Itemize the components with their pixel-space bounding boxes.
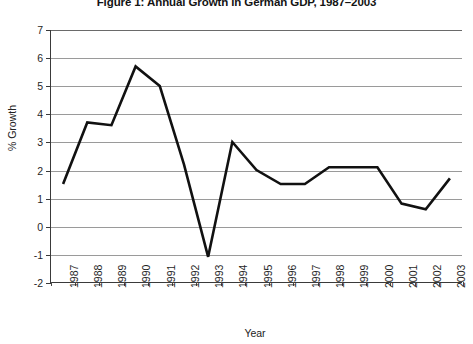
y-tick-mark — [46, 199, 51, 200]
x-tick-label-1994: 1994 — [237, 265, 249, 288]
y-tick-mark — [46, 171, 51, 172]
y-axis-title: % Growth — [6, 83, 18, 173]
x-tick-label-1998: 1998 — [334, 265, 346, 288]
y-tick-label: -2 — [34, 277, 43, 289]
y-tick-mark — [46, 114, 51, 115]
x-tick-label-1989: 1989 — [116, 265, 128, 288]
x-tick-label-1987: 1987 — [68, 265, 80, 288]
y-tick-label: -1 — [34, 249, 43, 261]
gridline-0 — [51, 227, 462, 228]
series-line-gdp-growth — [51, 30, 462, 282]
figure-container: Figure 1: Annual Growth in German GDP, 1… — [0, 0, 473, 344]
x-axis-title: Year — [50, 327, 460, 339]
y-tick-label: 6 — [37, 52, 43, 64]
x-tick-label-1995: 1995 — [262, 265, 274, 288]
y-tick-label: 1 — [37, 193, 43, 205]
y-tick-label: 4 — [37, 108, 43, 120]
x-tick-label-2002: 2002 — [431, 265, 443, 288]
y-tick-label: 3 — [37, 136, 43, 148]
y-tick-label: 0 — [37, 221, 43, 233]
gridline-2 — [51, 171, 462, 172]
y-tick-mark — [46, 227, 51, 228]
x-tick-label-2000: 2000 — [383, 265, 395, 288]
x-tick-label-1991: 1991 — [165, 265, 177, 288]
gridline-1 — [51, 199, 462, 200]
x-tick-label-2003: 2003 — [455, 265, 467, 288]
x-tick-label-1990: 1990 — [140, 265, 152, 288]
gridline-4 — [51, 114, 462, 115]
y-tick-label: 5 — [37, 80, 43, 92]
y-tick-mark — [46, 30, 51, 31]
gridline-7 — [51, 30, 462, 31]
x-tick-label-1999: 1999 — [358, 265, 370, 288]
plot-area: 76543210-1-2 198719881989199019911992199… — [50, 30, 462, 283]
gridline-6 — [51, 58, 462, 59]
x-tick-mark — [51, 282, 52, 286]
gridline-neg1 — [51, 255, 462, 256]
x-tick-label-1996: 1996 — [286, 265, 298, 288]
y-tick-label: 2 — [37, 165, 43, 177]
y-tick-mark — [46, 86, 51, 87]
y-tick-mark — [46, 142, 51, 143]
y-tick-label: 7 — [37, 24, 43, 36]
gridline-3 — [51, 142, 462, 143]
y-tick-mark — [46, 255, 51, 256]
x-tick-label-1993: 1993 — [213, 265, 225, 288]
y-tick-mark — [46, 58, 51, 59]
gridline-5 — [51, 86, 462, 87]
x-tick-label-1997: 1997 — [310, 265, 322, 288]
chart-title: Figure 1: Annual Growth in German GDP, 1… — [0, 0, 473, 8]
x-tick-label-1988: 1988 — [92, 265, 104, 288]
x-tick-label-1992: 1992 — [189, 265, 201, 288]
x-tick-label-2001: 2001 — [407, 265, 419, 288]
